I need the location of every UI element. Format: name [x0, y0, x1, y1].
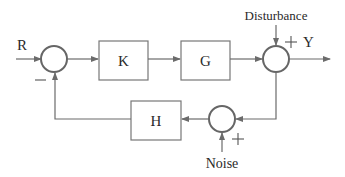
edge-sum2-sum3: [236, 72, 276, 119]
block-k: K: [99, 41, 148, 80]
block-diagram: R K G Disturbance Y Noise H: [0, 0, 345, 177]
block-k-label: K: [118, 53, 129, 69]
noise-label: Noise: [206, 156, 239, 171]
output-label-y: Y: [303, 34, 314, 50]
summing-junction-1: [41, 46, 67, 72]
block-h: H: [131, 101, 181, 140]
block-g: G: [181, 41, 230, 80]
block-h-label: H: [151, 113, 162, 129]
plus-sign-disturbance: [285, 36, 297, 48]
summing-junction-2: [263, 46, 289, 72]
plus-sign-noise: [232, 133, 244, 145]
summing-junction-3: [209, 106, 235, 132]
disturbance-label: Disturbance: [245, 8, 308, 23]
input-label-r: R: [17, 37, 27, 53]
block-g-label: G: [200, 53, 211, 69]
